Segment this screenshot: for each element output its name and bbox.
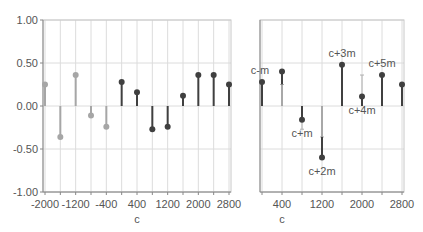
left-stem-plot: -1.00-0.500.000.501.00-2000-1200-4004001… bbox=[13, 14, 241, 225]
stem-marker bbox=[299, 117, 305, 123]
point-annotation: c-m bbox=[251, 64, 269, 76]
stem-marker bbox=[57, 134, 63, 140]
x-tick-label: -2000 bbox=[31, 198, 59, 210]
stem-marker bbox=[73, 72, 79, 78]
stem-marker bbox=[399, 82, 405, 88]
stem-marker bbox=[319, 155, 325, 161]
x-tick-label: 400 bbox=[128, 198, 146, 210]
stem-marker bbox=[359, 94, 365, 100]
point-annotation: c+5m bbox=[368, 57, 395, 69]
stem-marker bbox=[180, 93, 186, 99]
x-tick-label: -1200 bbox=[62, 198, 90, 210]
stem-marker bbox=[134, 89, 140, 95]
stem-marker bbox=[279, 69, 285, 75]
chart-figure: -1.00-0.500.000.501.00-2000-1200-4004001… bbox=[0, 0, 423, 232]
y-tick-label: 0.00 bbox=[17, 100, 38, 112]
x-tick-label: -400 bbox=[95, 198, 117, 210]
x-axis-label: c bbox=[279, 213, 285, 225]
y-tick-label: -1.00 bbox=[13, 186, 38, 198]
stem-marker bbox=[42, 82, 48, 88]
stem-marker bbox=[149, 126, 155, 132]
y-tick-label: 0.50 bbox=[17, 57, 38, 69]
point-annotation: c+2m bbox=[308, 165, 335, 177]
stem-marker bbox=[226, 82, 232, 88]
x-tick-label: 1200 bbox=[155, 198, 179, 210]
stem-marker bbox=[88, 112, 94, 118]
x-tick-label: 2800 bbox=[390, 198, 414, 210]
point-annotation: c+3m bbox=[328, 47, 355, 59]
x-tick-label: 2000 bbox=[186, 198, 210, 210]
point-annotation: c+m bbox=[291, 127, 312, 139]
stem-marker bbox=[119, 79, 125, 85]
stem-marker bbox=[195, 72, 201, 78]
right-stem-plot: 400120020002800cc-mc+mc+2mc+3mc+4mc+5m bbox=[251, 20, 414, 225]
stem-marker bbox=[103, 124, 109, 130]
point-annotation: c+4m bbox=[348, 104, 375, 116]
x-tick-label: 2000 bbox=[350, 198, 374, 210]
y-tick-label: -0.50 bbox=[13, 143, 38, 155]
stem-marker bbox=[339, 62, 345, 68]
stem-marker bbox=[211, 72, 217, 78]
stem-marker bbox=[259, 79, 265, 85]
x-axis-label: c bbox=[134, 213, 140, 225]
y-tick-label: 1.00 bbox=[17, 14, 38, 26]
stem-marker bbox=[165, 124, 171, 130]
x-tick-label: 2800 bbox=[217, 198, 241, 210]
stem-marker bbox=[379, 72, 385, 78]
x-tick-label: 400 bbox=[273, 198, 291, 210]
x-tick-label: 1200 bbox=[310, 198, 334, 210]
